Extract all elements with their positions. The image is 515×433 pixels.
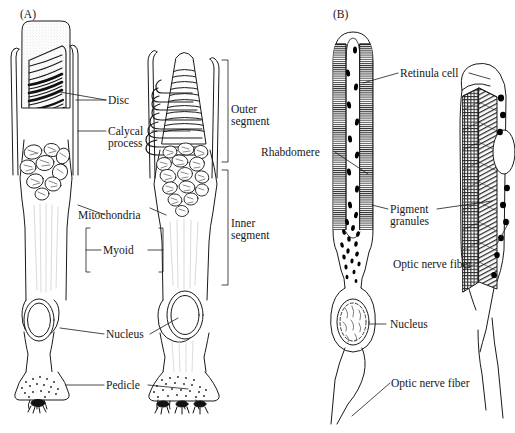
label-retinula-cell: Retinula cell xyxy=(400,67,458,80)
label-nucleus-b: Nucleus xyxy=(390,318,428,331)
label-rhabdomere: Rhabdomere xyxy=(261,146,320,159)
segment-brackets xyxy=(222,60,228,285)
label-calycal-line1: Calycal xyxy=(108,125,143,138)
label-pedicle: Pedicle xyxy=(106,379,140,392)
retinula-cell-3d xyxy=(460,63,515,418)
label-calycal-line2: process xyxy=(108,137,143,150)
retinula-cell-section xyxy=(331,32,376,424)
panel-b-id: (B) xyxy=(333,8,348,20)
label-myoid: Myoid xyxy=(103,244,134,257)
label-nucleus-a: Nucleus xyxy=(106,328,144,341)
label-mitochondria: Mitochondria xyxy=(78,209,141,222)
rod-cell xyxy=(11,21,78,413)
label-optic-nerve-fiber-1: Optic nerve fiber xyxy=(393,258,472,271)
figure-canvas: (A) (B) Disc Calycal process Mitochondri… xyxy=(0,0,515,433)
label-disc: Disc xyxy=(108,94,129,107)
label-outer-segment-line2: segment xyxy=(231,115,269,128)
label-optic-nerve-fiber-2: Optic nerve fiber xyxy=(391,377,470,390)
label-inner-segment-line2: segment xyxy=(231,229,269,242)
label-outer-segment-line1: Outer xyxy=(231,103,257,116)
label-pigment-line1: Pigment xyxy=(390,203,428,216)
panel-a-id: (A) xyxy=(20,8,36,20)
label-pigment-line2: granules xyxy=(390,215,429,228)
cone-cell xyxy=(146,51,219,415)
label-inner-segment-line1: Inner xyxy=(231,217,255,230)
